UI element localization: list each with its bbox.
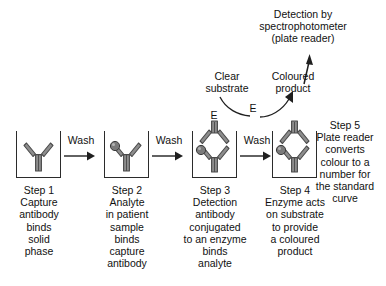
detection-by-spectrophotometer-label: Detection by spectrophotometer (plate re… (228, 8, 378, 45)
wash-arrow-icon-2 (152, 150, 186, 162)
enzyme-to-product-arrow-icon (258, 88, 300, 120)
caption-step-3: Step 3 Detection antibody conjugated to … (170, 184, 260, 269)
caption-step-1: Step 1 Capture antibody binds solid phas… (3, 184, 75, 257)
caption-step-5: Step 5 Plate reader converts colour to a… (305, 119, 385, 204)
analyte-icon-step-2 (107, 138, 123, 154)
analyte-icon-step-3 (193, 142, 209, 158)
enzyme-symbol-step-3: E (206, 110, 222, 121)
wash-label-3: Wash (238, 134, 276, 146)
caption-step-2: Step 2 Analyte in patient sample binds c… (89, 184, 165, 269)
elisa-diagram: Detection by spectrophotometer (plate re… (0, 0, 386, 286)
capture-antibody-icon-step-1 (23, 140, 55, 176)
wash-label-2: Wash (150, 134, 188, 146)
analyte-icon-step-4 (273, 142, 289, 158)
enzyme-conversion-symbol: E (245, 103, 261, 114)
wash-arrow-icon-3 (240, 150, 274, 162)
wash-arrow-icon-1 (64, 150, 98, 162)
clear-substrate-label: Clear substrate (196, 70, 258, 94)
wash-label-1: Wash (62, 134, 100, 146)
